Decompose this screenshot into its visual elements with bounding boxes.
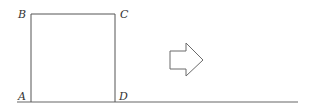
vertex-label-c: C [120, 8, 129, 21]
vertex-label-a: A [17, 90, 26, 103]
geometry-figure: B C A D [0, 0, 315, 108]
vertex-label-d: D [118, 90, 128, 103]
diagram-canvas: B C A D [0, 0, 315, 108]
arrow-right-outline-icon [170, 43, 203, 76]
square-abcd [31, 14, 115, 102]
vertex-label-b: B [17, 8, 26, 21]
